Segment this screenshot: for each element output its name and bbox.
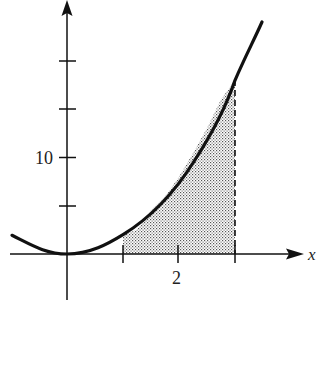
shaded-area [123,80,235,254]
chart: x 2 10 [0,0,319,387]
x-tick-label-2: 2 [172,268,181,288]
x-axis-label: x [307,245,316,264]
y-tick-label-10: 10 [35,148,53,168]
